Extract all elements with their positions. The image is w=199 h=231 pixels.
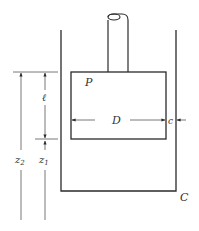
clearance-label: c: [168, 116, 173, 126]
z2-label: z2: [14, 154, 25, 167]
piston-cylinder-diagram: P C D c ℓ z2 z1: [0, 0, 199, 231]
diameter-label: D: [111, 114, 121, 127]
length-label: ℓ: [42, 92, 46, 103]
piston-rod: [108, 14, 128, 72]
cylinder: [61, 30, 176, 191]
cylinder-label: C: [180, 191, 189, 204]
piston-label: P: [84, 76, 93, 89]
z1-label: z1: [38, 154, 49, 167]
